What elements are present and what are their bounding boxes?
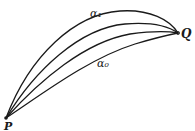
curve-intermediate-2 [6, 32, 178, 118]
curve-alpha-0 [6, 33, 178, 118]
label-alpha-0: α₀ [97, 57, 109, 70]
label-point-q: Q [181, 27, 192, 41]
label-point-p: P [3, 120, 13, 131]
curve-intermediate-1 [6, 23, 178, 118]
label-alpha-1: α₁ [90, 7, 102, 20]
homotopy-diagram: α₁ α₀ Q P [0, 0, 195, 131]
curve-alpha-1 [6, 11, 178, 118]
